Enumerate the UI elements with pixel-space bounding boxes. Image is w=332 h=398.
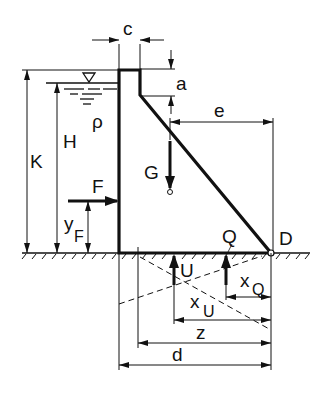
label-c: c	[123, 18, 133, 39]
label-d: d	[172, 344, 183, 365]
dam-diagram: K H ρ c a e G F y F D	[0, 0, 332, 398]
label-xU: x	[190, 291, 200, 312]
dimension-a	[140, 50, 175, 114]
label-yF-subscript: F	[74, 228, 84, 245]
label-yF: y	[64, 213, 74, 234]
dimension-c	[92, 40, 164, 70]
water-level-icon	[83, 73, 95, 82]
label-D: D	[279, 228, 293, 249]
label-xQ: x	[240, 270, 250, 291]
label-rho: ρ	[92, 111, 103, 132]
label-e: e	[214, 100, 225, 121]
label-z: z	[196, 322, 206, 343]
force-Q-arrow	[226, 244, 232, 285]
label-a: a	[176, 73, 187, 94]
label-U: U	[180, 260, 194, 281]
label-H: H	[63, 131, 77, 152]
label-xQ-subscript: Q	[252, 281, 264, 298]
label-Q: Q	[222, 226, 237, 247]
label-F: F	[92, 176, 104, 197]
label-xU-subscript: U	[203, 303, 215, 320]
dam-profile	[119, 70, 271, 253]
force-G-arrow	[168, 141, 173, 195]
label-K: K	[30, 151, 43, 172]
label-G: G	[144, 162, 159, 183]
